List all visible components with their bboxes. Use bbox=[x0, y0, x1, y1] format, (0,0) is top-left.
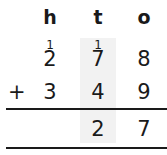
header-tens: t bbox=[80, 6, 116, 28]
sum-line-bottom bbox=[6, 147, 167, 149]
addend2-ones: 9 bbox=[126, 80, 162, 104]
result-ones: 7 bbox=[126, 117, 162, 141]
addend2-tens: 4 bbox=[80, 80, 116, 104]
plus-operator: + bbox=[8, 80, 24, 104]
addend1-hundreds: 2 bbox=[32, 47, 68, 71]
header-ones: o bbox=[126, 6, 162, 28]
addend1-ones: 8 bbox=[126, 47, 162, 71]
sum-line-top bbox=[6, 108, 167, 110]
result-tens: 2 bbox=[80, 117, 116, 141]
addend2-hundreds: 3 bbox=[32, 80, 68, 104]
header-hundreds: h bbox=[32, 6, 68, 28]
addend1-tens: 7 bbox=[80, 47, 116, 71]
